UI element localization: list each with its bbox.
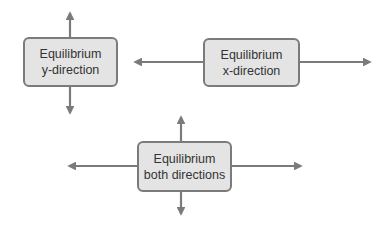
box-subtitle: x-direction xyxy=(223,63,281,79)
box-title: Equilibrium xyxy=(221,47,283,63)
arrows-layer xyxy=(0,0,390,229)
equilibrium-both-directions-box: Equilibrium both directions xyxy=(137,141,232,192)
box-title: Equilibrium xyxy=(154,151,216,167)
equilibrium-x-direction-box: Equilibrium x-direction xyxy=(203,38,300,87)
box-subtitle: y-direction xyxy=(42,62,100,78)
equilibrium-y-direction-box: Equilibrium y-direction xyxy=(23,37,118,87)
box-title: Equilibrium xyxy=(40,46,102,62)
box-subtitle: both directions xyxy=(144,167,225,183)
